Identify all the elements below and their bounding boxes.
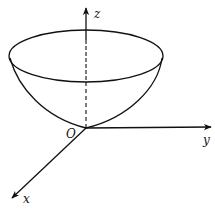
y-axis-label: y: [202, 133, 210, 147]
paraboloid-diagram: z y x O: [0, 0, 215, 212]
y-axis: [86, 127, 211, 128]
origin-label: O: [66, 127, 76, 141]
x-axis-label: x: [23, 192, 30, 206]
paraboloid-right-profile: [86, 58, 162, 128]
z-axis-label: z: [93, 7, 101, 21]
paraboloid-left-profile: [10, 58, 86, 128]
